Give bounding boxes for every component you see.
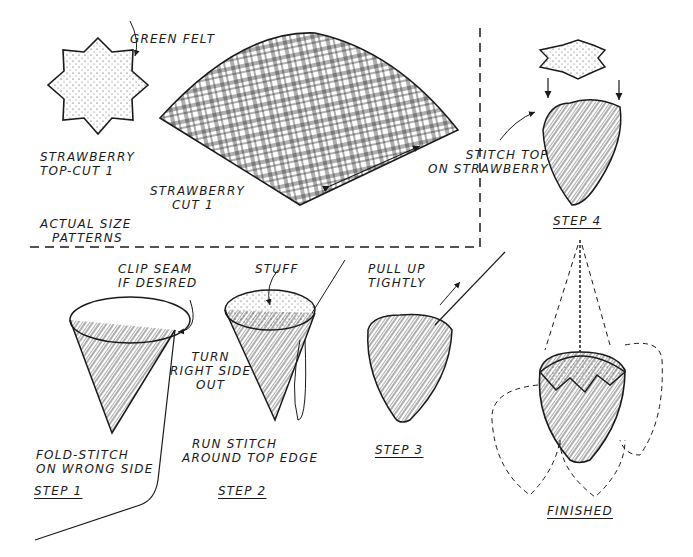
step1-illustration [35,297,193,540]
label-actual-size-patterns: ACTUAL SIZE PATTERNS [40,217,132,245]
label-strawberry-body: STRAWBERRY CUT 1 [150,184,245,212]
label-stitch-top: STITCH TOP ON STRAWBERRY [428,148,549,176]
label-stuff: STUFF [255,262,299,276]
label-green-felt: GREEN FELT [130,32,215,46]
step1-title: STEP 1 [34,484,82,498]
step4-illustration [500,40,621,205]
label-clip-seam: CLIP SEAM IF DESIRED [118,262,197,290]
step2-illustration [225,260,345,420]
finished-title: FINISHED [547,504,613,518]
label-strawberry-top: STRAWBERRY TOP-CUT 1 [40,150,135,178]
step2-title: STEP 2 [218,484,266,498]
label-run-stitch: RUN STITCH AROUND TOP EDGE [182,437,318,465]
step3-title: STEP 3 [375,443,423,457]
label-pull-up-tightly: PULL UP TIGHTLY [368,262,426,290]
strawberry-body-wedge-pattern [160,33,458,205]
label-turn-right-side-out: TURN RIGHT SIDE OUT [170,350,251,392]
label-fold-stitch: FOLD-STITCH ON WRONG SIDE [36,448,154,476]
step4-title: STEP 4 [553,214,601,228]
finished-illustration [492,240,662,497]
